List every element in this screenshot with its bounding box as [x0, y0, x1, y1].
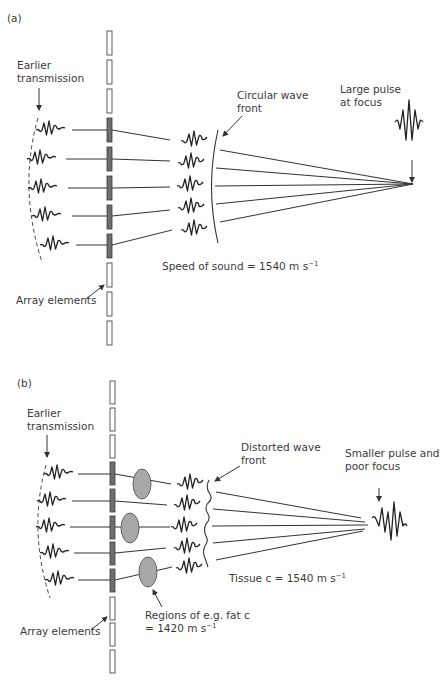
- tissue-speed-label: Tissue c = 1540 m s−1: [228, 572, 346, 584]
- earlier-wavelets-b: [36, 465, 74, 585]
- distorted-wave-front: [204, 480, 212, 567]
- panel-a: (a) Earlier transmission: [7, 12, 423, 345]
- panel-b-label: (b): [17, 377, 32, 389]
- large-pulse-label: Large pulse: [340, 83, 401, 95]
- circular-wave-front: [212, 130, 219, 243]
- ultrasound-beamforming-diagram: (a) Earlier transmission: [0, 0, 441, 688]
- fat-region-3: [139, 557, 157, 587]
- earlier-wavefront-arc-b: [38, 465, 50, 598]
- element-rays-a: [112, 130, 172, 245]
- smaller-pulse-label: Smaller pulse and: [345, 447, 440, 459]
- distorted-wave-front-label-2: front: [241, 454, 266, 466]
- fat-region-1: [133, 469, 151, 499]
- feed-lines-b: [70, 474, 113, 580]
- circular-wave-front-label-2: front: [237, 102, 262, 114]
- fat-regions-label-2: = 1420 m s−1: [145, 622, 217, 634]
- array-elements-label-b: Array elements: [20, 625, 100, 637]
- earlier-wavefront-arc-a: [29, 118, 42, 262]
- wave-front-arrow-a: [223, 116, 242, 136]
- distorted-wave-front-label: Distorted wave: [241, 441, 321, 453]
- large-pulse-label-2: at focus: [340, 96, 382, 108]
- earlier-transmission-label-a-2: transmission: [17, 72, 84, 84]
- wave-front-arrow-b: [215, 466, 240, 481]
- panel-a-label: (a): [7, 12, 22, 24]
- panel-b: (b) Earlier transmission: [17, 377, 440, 673]
- earlier-transmission-label-b-2: transmission: [27, 420, 94, 432]
- front-wavelets-b: [171, 474, 203, 573]
- fat-region-2: [121, 513, 139, 543]
- front-wavelets-a: [177, 131, 207, 235]
- fat-regions-label: Regions of e.g. fat c: [145, 609, 250, 621]
- fat-regions: [121, 469, 157, 587]
- array-elements-b: [110, 381, 115, 673]
- smaller-pulse-label-2: poor focus: [345, 460, 400, 472]
- earlier-transmission-label-b: Earlier: [27, 407, 62, 419]
- array-elements-a: [107, 31, 112, 345]
- smaller-pulse-icon: [372, 502, 407, 540]
- fat-regions-arrow: [153, 590, 162, 607]
- feed-lines-a: [66, 130, 110, 245]
- speed-of-sound-label: Speed of sound = 1540 m s−1: [162, 260, 318, 272]
- converging-rays-b: [212, 492, 368, 560]
- large-pulse-icon: [395, 100, 423, 140]
- array-elements-label-a: Array elements: [16, 294, 96, 306]
- earlier-transmission-label-a: Earlier: [17, 59, 52, 71]
- circular-wave-front-label: Circular wave: [237, 89, 308, 101]
- converging-rays-a: [215, 150, 413, 222]
